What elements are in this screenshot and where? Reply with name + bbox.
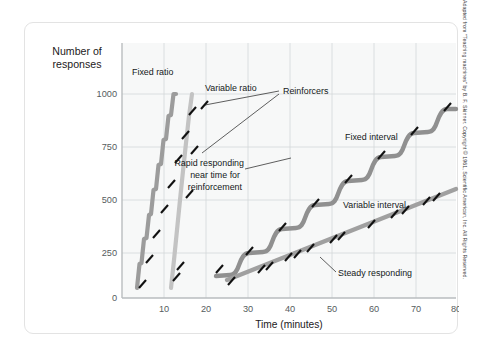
svg-text:70: 70 <box>411 304 421 314</box>
x-tick-labels: 10 20 30 40 50 60 70 80 <box>159 304 459 314</box>
annotation-fixed-interval: Fixed interval <box>345 132 398 142</box>
y-tick-labels: 0 250 500 750 1000 <box>97 89 117 303</box>
cumulative-response-chart: 10 20 30 40 50 60 70 80 0 250 500 750 10… <box>25 23 459 335</box>
annotation-rapid-responding-line2: near time for <box>190 170 240 180</box>
figure-credit: Adapted from "Teaching machines" by B. F… <box>454 0 476 364</box>
figure-card: 10 20 30 40 50 60 70 80 0 250 500 750 10… <box>24 22 458 334</box>
annotation-rapid-responding-line1: Rapid responding <box>174 158 244 168</box>
y-axis-title-line2: responses <box>53 58 102 70</box>
svg-text:10: 10 <box>159 304 169 314</box>
svg-text:50: 50 <box>327 304 337 314</box>
annotation-variable-ratio: Variable ratio <box>205 83 257 93</box>
svg-text:60: 60 <box>369 304 379 314</box>
svg-text:30: 30 <box>243 304 253 314</box>
annotation-fixed-ratio: Fixed ratio <box>132 67 173 77</box>
annotation-reinforcers: Reinforcers <box>283 86 329 96</box>
annotation-rapid-responding-line3: reinforcement <box>188 182 243 192</box>
svg-text:40: 40 <box>285 304 295 314</box>
annotation-variable-interval: Variable interval <box>343 200 406 210</box>
svg-text:250: 250 <box>102 248 117 258</box>
x-axis-title: Time (minutes) <box>255 319 323 330</box>
annotation-steady-responding: Steady responding <box>338 268 412 278</box>
svg-text:0: 0 <box>112 293 117 303</box>
y-axis-title-line1: Number of <box>52 45 102 57</box>
svg-text:1000: 1000 <box>97 89 117 99</box>
svg-text:750: 750 <box>102 142 117 152</box>
svg-text:20: 20 <box>201 304 211 314</box>
svg-text:500: 500 <box>102 195 117 205</box>
